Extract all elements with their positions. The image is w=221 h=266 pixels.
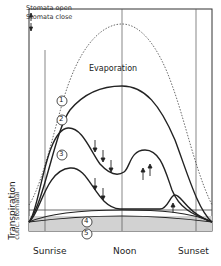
plot-frame	[29, 9, 212, 231]
curve-5-label: 5	[84, 229, 88, 237]
x-tick-sunrise: Sunrise	[33, 246, 67, 256]
legend-close: Stomata close	[26, 13, 72, 22]
arrow-down-icon	[30, 27, 33, 31]
legend: Stomata open Stomata close	[26, 4, 72, 22]
legend-open: Stomata open	[26, 4, 72, 13]
curve-4-label: 4	[84, 217, 88, 225]
y-axis-sublabel: cutic. stomatal	[14, 166, 21, 266]
curve-1-label: 1	[59, 96, 63, 104]
curve-2-label: 2	[59, 115, 63, 123]
cuticular-band	[29, 216, 212, 231]
x-tick-noon: Noon	[113, 246, 136, 256]
curve-3-label: 3	[59, 150, 63, 158]
transpiration-diagram	[0, 0, 221, 266]
stomata-open-arrows	[141, 164, 175, 213]
x-tick-sunset: Sunset	[178, 246, 209, 256]
evaporation-label: Evaporation	[89, 64, 137, 73]
curve-1	[29, 86, 212, 222]
evaporation-curve	[29, 24, 212, 205]
